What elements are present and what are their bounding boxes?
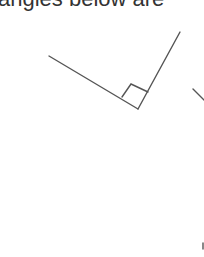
partial-shape-right: [193, 89, 204, 100]
ray-left: [49, 56, 138, 109]
right-angle-marker: [122, 84, 148, 97]
ray-right: [138, 32, 180, 109]
angle-diagram: [0, 0, 204, 257]
